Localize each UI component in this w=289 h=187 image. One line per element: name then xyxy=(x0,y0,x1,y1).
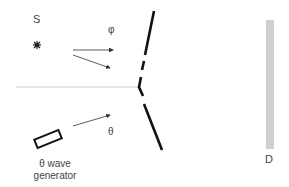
arrow-generator xyxy=(73,115,110,126)
generator-label-line1: θ wave xyxy=(30,158,80,169)
source-label: S xyxy=(33,14,40,25)
star-burst-icon xyxy=(33,41,41,49)
angle-label: θ xyxy=(108,126,114,137)
detector-screen xyxy=(267,20,273,149)
detector-label: D xyxy=(265,154,273,165)
generator-label-line2: generator xyxy=(25,170,85,181)
barrier xyxy=(139,11,162,150)
phase-label: φ xyxy=(108,24,114,35)
arrow-diagonal xyxy=(73,55,110,68)
wave-generator-box xyxy=(34,130,61,148)
